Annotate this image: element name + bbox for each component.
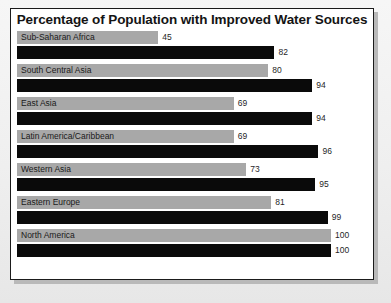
bar-group: Western Asia 73 95	[17, 163, 367, 194]
bar-series-b[interactable]	[17, 211, 328, 224]
bar-category-label: Western Asia	[21, 163, 71, 176]
bar-value-label: 69	[238, 97, 247, 110]
bar-group: South Central Asia 80 94	[17, 64, 367, 95]
bar-track-series-a: Eastern Europe 81	[17, 196, 367, 209]
bar-value-label: 73	[250, 163, 259, 176]
bar-track-series-a: Latin America/Caribbean 69	[17, 130, 367, 143]
bar-track-series-b: 82	[17, 46, 367, 59]
bar-value-label: 99	[332, 211, 341, 224]
bar-value-label: 82	[278, 46, 287, 59]
bar-track-series-b: 96	[17, 145, 367, 158]
bar-value-label: 96	[322, 145, 331, 158]
bar-group: Sub-Saharan Africa 45 82	[17, 31, 367, 62]
bar-category-label: South Central Asia	[21, 64, 91, 77]
bar-track-series-a: East Asia 69	[17, 97, 367, 110]
bar-series-b[interactable]	[17, 79, 312, 92]
bar-track-series-a: Western Asia 73	[17, 163, 367, 176]
chart-frame: Percentage of Population with Improved W…	[10, 8, 374, 280]
plot-area: Sub-Saharan Africa 45 82 South Central A…	[17, 31, 367, 275]
bar-track-series-a: North America 100	[17, 229, 367, 242]
bar-category-label: East Asia	[21, 97, 56, 110]
bar-series-b[interactable]	[17, 145, 318, 158]
bar-group: Eastern Europe 81 99	[17, 196, 367, 227]
bar-track-series-a: South Central Asia 80	[17, 64, 367, 77]
bar-series-b[interactable]	[17, 112, 312, 125]
bar-category-label: Sub-Saharan Africa	[21, 31, 95, 44]
bar-group: North America 100 100	[17, 229, 367, 260]
chart-title: Percentage of Population with Improved W…	[11, 12, 373, 27]
bar-track-series-b: 99	[17, 211, 367, 224]
bar-value-label: 81	[275, 196, 284, 209]
bar-track-series-b: 100	[17, 244, 367, 257]
bar-value-label: 94	[316, 79, 325, 92]
bar-value-label: 80	[272, 64, 281, 77]
bar-track-series-b: 94	[17, 79, 367, 92]
bar-category-label: Latin America/Caribbean	[21, 130, 114, 143]
bar-value-label: 45	[162, 31, 171, 44]
bar-value-label: 100	[335, 244, 349, 257]
bar-track-series-b: 95	[17, 178, 367, 191]
bar-value-label: 95	[319, 178, 328, 191]
bar-series-b[interactable]	[17, 244, 331, 257]
bar-category-label: North America	[21, 229, 75, 242]
bar-category-label: Eastern Europe	[21, 196, 80, 209]
bar-group: East Asia 69 94	[17, 97, 367, 128]
bar-value-label: 69	[238, 130, 247, 143]
bar-value-label: 100	[335, 229, 349, 242]
bar-series-b[interactable]	[17, 178, 315, 191]
bar-track-series-b: 94	[17, 112, 367, 125]
bar-track-series-a: Sub-Saharan Africa 45	[17, 31, 367, 44]
bar-group: Latin America/Caribbean 69 96	[17, 130, 367, 161]
bar-series-b[interactable]	[17, 46, 274, 59]
bar-value-label: 94	[316, 112, 325, 125]
